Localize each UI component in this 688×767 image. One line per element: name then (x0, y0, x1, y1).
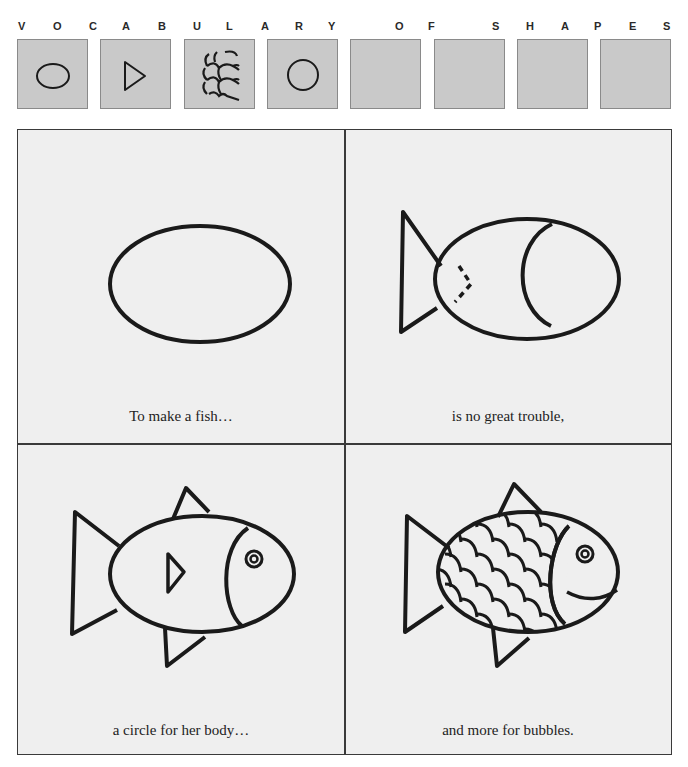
title-letter: H (526, 20, 534, 32)
fish-outline-drawing-icon (345, 130, 671, 442)
vocabulary-box-triangle (100, 39, 171, 109)
fish-with-fins-drawing-icon (18, 444, 344, 756)
panel-caption: a circle for her body… (18, 722, 344, 739)
title-letter: A (122, 20, 130, 32)
title-letter: O (395, 20, 404, 32)
vocabulary-box-empty (350, 39, 421, 109)
title-letter: Y (328, 20, 335, 32)
oval-drawing-icon (18, 130, 344, 442)
drawing-steps-grid: To make a fish… is no great trouble, (17, 129, 672, 755)
title-letter: A (561, 20, 569, 32)
title-letter: E (629, 20, 636, 32)
title-letter: U (193, 20, 201, 32)
title-letter: V (18, 20, 25, 32)
title-letter: S (663, 20, 670, 32)
title-letter: P (594, 20, 601, 32)
title-letter: R (295, 20, 303, 32)
triangle-shape-icon (101, 40, 172, 110)
panel-step-3: a circle for her body… (18, 444, 344, 756)
panel-caption: and more for bubbles. (345, 722, 671, 739)
vocabulary-box-oval (17, 39, 88, 109)
panel-caption: is no great trouble, (345, 408, 671, 425)
panel-step-2: is no great trouble, (345, 130, 671, 442)
vocabulary-box-circle (267, 39, 338, 109)
panel-step-4: and more for bubbles. (345, 444, 671, 756)
vocabulary-box-empty (600, 39, 671, 109)
panel-caption: To make a fish… (18, 408, 344, 425)
circle-shape-icon (268, 40, 339, 110)
title-letter: C (89, 20, 97, 32)
oval-shape-icon (18, 40, 89, 110)
title-letter: S (492, 20, 499, 32)
scales-shape-icon (185, 40, 256, 110)
vocabulary-box-scales (184, 39, 255, 109)
title-letter: A (261, 20, 269, 32)
vocabulary-box-empty (434, 39, 505, 109)
title-letter: B (158, 20, 166, 32)
title-letter: O (53, 20, 62, 32)
title-letter: F (428, 20, 435, 32)
panel-step-1: To make a fish… (18, 130, 344, 442)
fish-with-scales-drawing-icon (345, 444, 671, 756)
vocabulary-box-empty (517, 39, 588, 109)
title-letter: L (226, 20, 233, 32)
